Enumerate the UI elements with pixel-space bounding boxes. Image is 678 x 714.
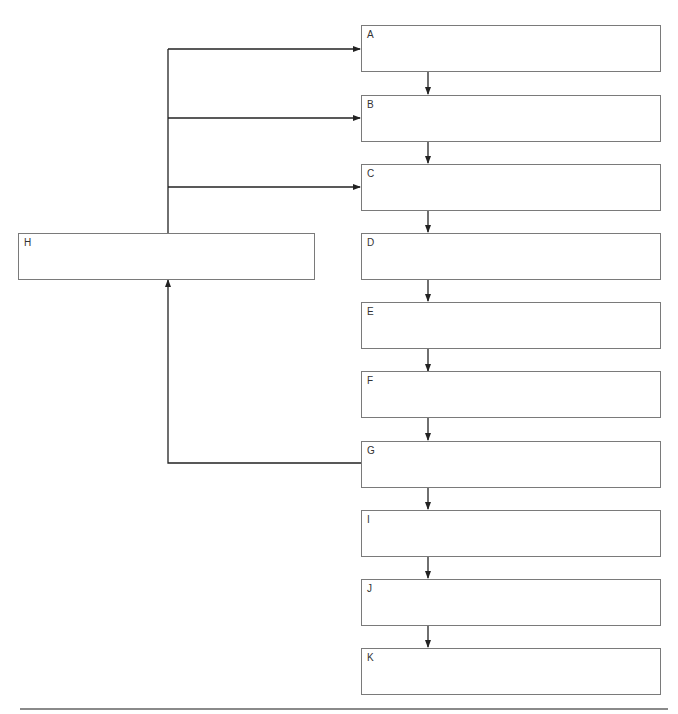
node-label: K <box>367 652 374 663</box>
node-c: C <box>361 164 661 211</box>
node-j: J <box>361 579 661 626</box>
node-label: C <box>367 168 374 179</box>
node-label: F <box>367 375 373 386</box>
node-label: B <box>367 99 374 110</box>
node-label: A <box>367 29 374 40</box>
node-label: G <box>367 445 375 456</box>
node-g: G <box>361 441 661 488</box>
node-label: E <box>367 306 374 317</box>
node-b: B <box>361 95 661 142</box>
node-label: H <box>24 237 31 248</box>
node-label: I <box>367 514 370 525</box>
node-f: F <box>361 371 661 418</box>
bottom-divider <box>20 708 668 710</box>
node-d: D <box>361 233 661 280</box>
node-a: A <box>361 25 661 72</box>
node-label: J <box>367 583 372 594</box>
node-e: E <box>361 302 661 349</box>
node-k: K <box>361 648 661 695</box>
node-i: I <box>361 510 661 557</box>
arrow-g-to-h <box>168 280 361 463</box>
node-label: D <box>367 237 374 248</box>
node-h: H <box>18 233 315 280</box>
